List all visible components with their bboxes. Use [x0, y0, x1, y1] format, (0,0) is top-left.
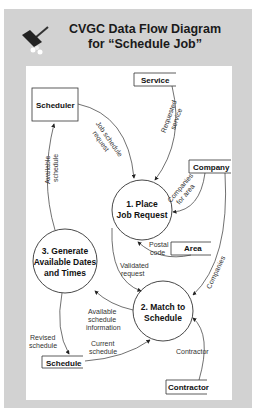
svg-text:Scheduler: Scheduler	[36, 101, 75, 110]
svg-text:Companies: Companies	[205, 254, 227, 290]
svg-text:Schedule: Schedule	[46, 359, 82, 368]
label-available-schedule-info-1: Available	[88, 308, 116, 315]
svg-text:Available: Available	[44, 156, 51, 184]
svg-text:Contractor: Contractor	[168, 383, 209, 392]
svg-text:Service: Service	[141, 76, 170, 85]
entity-schedule[interactable]: Schedule	[42, 356, 83, 368]
label-companies-for-area: Companies for area	[166, 172, 201, 209]
label-validated-request-1: Validated	[120, 262, 149, 269]
label-job-schedule-request: Job schedule request	[87, 120, 124, 163]
entity-area[interactable]: Area	[171, 242, 211, 255]
label-current-schedule-1: Current	[91, 340, 114, 347]
label-revised-schedule-1: Revised	[30, 334, 55, 341]
entity-company[interactable]: Company	[189, 160, 231, 173]
svg-text:Company: Company	[193, 163, 230, 172]
svg-text:Area: Area	[184, 244, 202, 253]
svg-text:1. Place: 1. Place	[126, 199, 158, 209]
svg-text:schedule: schedule	[52, 154, 59, 182]
flow-revised-schedule	[60, 293, 69, 354]
label-revised-schedule-2: schedule	[29, 342, 57, 349]
process-match-to-schedule[interactable]: 2. Match to Schedule	[133, 281, 193, 341]
process-generate-available-dates[interactable]: 3. Generate Available Dates and Times	[33, 229, 97, 293]
label-companies: Companies	[205, 254, 227, 290]
svg-text:2. Match to: 2. Match to	[141, 302, 185, 312]
process-place-job-request[interactable]: 1. Place Job Request	[112, 180, 172, 240]
entity-scheduler[interactable]: Scheduler	[32, 88, 78, 121]
entity-contractor[interactable]: Contractor	[166, 380, 209, 394]
label-requested-service: Requested service	[160, 99, 186, 136]
svg-text:and Times: and Times	[44, 268, 86, 278]
label-contractor-flow: Contractor	[176, 348, 209, 355]
entity-service[interactable]: Service	[134, 73, 176, 86]
label-validated-request-2: request	[121, 270, 144, 278]
svg-text:Available Dates: Available Dates	[34, 257, 97, 267]
svg-text:Job Request: Job Request	[116, 210, 167, 220]
svg-text:3. Generate: 3. Generate	[42, 246, 89, 256]
label-current-schedule-2: schedule	[89, 348, 117, 355]
label-available-schedule-info-2: schedule	[88, 316, 116, 323]
label-postal-code-1: Postal	[149, 241, 169, 248]
label-postal-code-2: code	[150, 249, 165, 256]
label-available-schedule-info-3: information	[86, 324, 121, 331]
svg-text:Schedule: Schedule	[144, 313, 182, 323]
label-available-schedule: Available schedule	[44, 154, 59, 184]
data-flow-diagram: Service Scheduler Company Area Schedule …	[0, 0, 255, 416]
